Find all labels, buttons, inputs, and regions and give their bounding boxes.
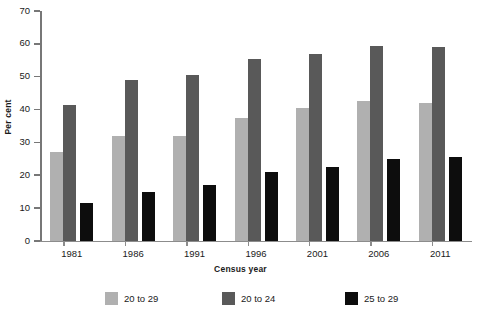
y-tick-label: 30	[0, 136, 30, 147]
bar	[186, 75, 199, 241]
y-tick-mark	[34, 10, 40, 12]
bar	[326, 167, 339, 241]
x-tick-label: 2001	[287, 248, 347, 259]
y-tick-label: 0	[0, 235, 30, 246]
bar	[449, 157, 462, 241]
legend-item[interactable]: 20 to 29	[105, 289, 158, 307]
bar	[432, 47, 445, 241]
bar	[80, 203, 93, 241]
bar	[387, 159, 400, 241]
y-tick-mark	[34, 207, 40, 209]
y-tick-mark	[34, 240, 40, 242]
y-tick-label: 10	[0, 202, 30, 213]
bar-group	[50, 11, 93, 241]
y-tick-mark	[34, 174, 40, 176]
y-tick-mark	[34, 109, 40, 111]
legend-label: 20 to 24	[241, 293, 275, 304]
x-tick-mark	[309, 241, 311, 246]
bar	[265, 172, 278, 241]
bar	[142, 192, 155, 241]
y-tick-mark	[34, 76, 40, 78]
y-tick-label: 60	[0, 37, 30, 48]
bar	[296, 108, 309, 241]
x-tick-mark	[125, 241, 127, 246]
y-tick-label: 20	[0, 169, 30, 180]
bar	[309, 54, 322, 241]
y-tick-mark	[34, 43, 40, 45]
x-tick-label: 1991	[165, 248, 225, 259]
bar-group	[173, 11, 216, 241]
legend-item[interactable]: 20 to 24	[222, 289, 275, 307]
bar	[248, 59, 261, 241]
bar	[112, 136, 125, 241]
bar-chart: Per cent 010203040506070 198119861991199…	[0, 0, 481, 312]
x-tick-mark	[432, 241, 434, 246]
bar	[203, 185, 216, 241]
bar-group	[357, 11, 400, 241]
x-tick-label: 1986	[103, 248, 163, 259]
legend-item[interactable]: 25 to 29	[345, 289, 398, 307]
bar-group	[296, 11, 339, 241]
bar-group	[112, 11, 155, 241]
y-tick-label: 50	[0, 70, 30, 81]
y-tick-label: 40	[0, 103, 30, 114]
bar	[235, 118, 248, 241]
x-axis-title: Census year	[0, 264, 481, 274]
x-tick-label: 2011	[410, 248, 470, 259]
x-tick-mark	[248, 241, 250, 246]
x-tick-label: 2006	[349, 248, 409, 259]
bar	[50, 152, 63, 241]
bar-group	[235, 11, 278, 241]
legend-swatch-icon	[345, 292, 358, 305]
y-tick-label: 70	[0, 5, 30, 16]
bar	[125, 80, 138, 241]
legend-swatch-icon	[222, 292, 235, 305]
plot-area	[41, 11, 471, 241]
bar	[173, 136, 186, 241]
y-tick-mark	[34, 142, 40, 144]
x-tick-label: 1981	[42, 248, 102, 259]
bar	[63, 105, 76, 241]
legend-swatch-icon	[105, 292, 118, 305]
bar-group	[419, 11, 462, 241]
x-tick-mark	[370, 241, 372, 246]
legend-label: 25 to 29	[364, 293, 398, 304]
x-tick-mark	[63, 241, 65, 246]
bar	[419, 103, 432, 241]
bar	[357, 101, 370, 241]
legend-label: 20 to 29	[124, 293, 158, 304]
x-tick-label: 1996	[226, 248, 286, 259]
x-tick-mark	[186, 241, 188, 246]
chart-legend: 20 to 2920 to 2425 to 29	[0, 289, 481, 309]
bar	[370, 46, 383, 242]
